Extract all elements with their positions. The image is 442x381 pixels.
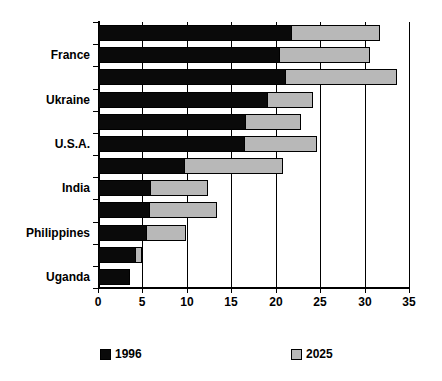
bar-segment-1996: [98, 69, 286, 85]
bar-segment-1996: [98, 92, 268, 108]
bar-row: [98, 158, 409, 174]
bar-row: [98, 92, 409, 108]
x-tick-mark: [231, 288, 232, 293]
x-tick-mark: [142, 288, 143, 293]
bar-row: [98, 47, 409, 63]
bar-segment-1996: [98, 247, 136, 263]
category-label: Ukraine: [46, 93, 90, 107]
category-label: France: [51, 48, 90, 62]
x-tick-label: 15: [211, 295, 251, 309]
bar-segment-1996: [98, 25, 292, 41]
bar-row: [98, 269, 409, 285]
x-tick-label: 25: [300, 295, 340, 309]
legend-item[interactable]: 2025: [291, 348, 333, 360]
category-label: U.S.A.: [55, 137, 90, 151]
bar-row: [98, 25, 409, 41]
legend-label: 1996: [115, 348, 142, 360]
bar-segment-1996: [98, 225, 147, 241]
category-label: India: [62, 181, 90, 195]
bar-segment-1996: [98, 202, 150, 218]
bar-chart: 05101520253035 FranceUkraineU.S.A.IndiaP…: [0, 0, 442, 381]
x-tick-mark: [365, 288, 366, 293]
legend-label: 2025: [306, 348, 333, 360]
bar-segment-1996: [98, 114, 246, 130]
bar-row: [98, 247, 409, 263]
x-tick-label: 20: [256, 295, 296, 309]
category-label: Philippines: [26, 226, 90, 240]
bar-segment-1996: [98, 47, 280, 63]
bar-segment-1996: [98, 269, 130, 285]
x-tick-mark: [320, 288, 321, 293]
x-tick-mark: [187, 288, 188, 293]
gridline: [409, 22, 410, 288]
x-tick-label: 5: [122, 295, 162, 309]
legend-swatch-2025: [291, 349, 302, 360]
bar-segment-1996: [98, 158, 185, 174]
x-tick-label: 10: [167, 295, 207, 309]
bar-row: [98, 202, 409, 218]
bar-row: [98, 136, 409, 152]
x-tick-label: 35: [389, 295, 429, 309]
legend-swatch-1996: [100, 349, 111, 360]
bar-row: [98, 180, 409, 196]
bar-row: [98, 225, 409, 241]
plot-area: [98, 22, 409, 288]
x-tick-label: 30: [345, 295, 385, 309]
category-label: Uganda: [46, 270, 90, 284]
x-tick-mark: [98, 288, 99, 293]
legend-item[interactable]: 1996: [100, 348, 142, 360]
category-labels: FranceUkraineU.S.A.IndiaPhilippinesUgand…: [0, 0, 90, 381]
y-tick-mark: [93, 288, 98, 289]
bar-row: [98, 69, 409, 85]
bar-segment-1996: [98, 180, 151, 196]
chart-legend: 19962025: [0, 348, 442, 370]
bar-row: [98, 114, 409, 130]
x-tick-mark: [409, 288, 410, 293]
x-tick-mark: [276, 288, 277, 293]
bar-segment-1996: [98, 136, 245, 152]
